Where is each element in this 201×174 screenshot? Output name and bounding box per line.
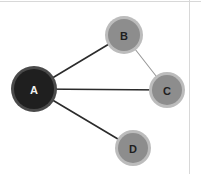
graph-node-c[interactable]: C xyxy=(149,72,185,108)
node-core-d[interactable] xyxy=(118,133,148,163)
nodes-layer: ABCD xyxy=(11,16,185,166)
graph-node-d[interactable]: D xyxy=(115,130,151,166)
graph-canvas: ABCD xyxy=(0,0,201,174)
graph-node-b[interactable]: B xyxy=(105,16,143,54)
node-core-c[interactable] xyxy=(152,75,182,105)
graph-svg: ABCD xyxy=(0,0,201,174)
graph-node-a[interactable]: A xyxy=(11,66,57,112)
node-core-a[interactable] xyxy=(14,69,54,109)
node-core-b[interactable] xyxy=(108,19,140,51)
